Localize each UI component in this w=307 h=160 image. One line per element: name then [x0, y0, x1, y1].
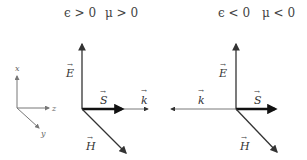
vector-arrow-icon: → — [141, 87, 147, 95]
x-axis-label: x — [15, 64, 20, 73]
right-epsilon-condition: ϵ < 0 — [218, 6, 250, 20]
right-H-label: H → — [239, 134, 250, 153]
vector-arrow-icon: → — [87, 134, 93, 142]
svg-text:k: k — [141, 94, 148, 107]
y-axis — [17, 108, 39, 128]
left-panel: ϵ > 0 μ > 0 E → S → k → H → — [64, 6, 148, 153]
left-H-label: H → — [85, 134, 96, 153]
left-S-label: S → — [100, 88, 108, 107]
diagram-canvas: x z y ϵ > 0 μ > 0 E → S → k → H → ϵ < 0 … — [0, 0, 307, 160]
svg-text:k: k — [198, 94, 205, 107]
vector-arrow-icon: → — [198, 87, 204, 95]
left-epsilon-condition: ϵ > 0 — [64, 6, 96, 20]
z-axis-label: z — [51, 104, 57, 113]
right-E-label: E → — [218, 61, 227, 80]
vector-arrow-icon: → — [67, 61, 73, 69]
left-E-label: E → — [65, 61, 74, 80]
vector-arrow-icon: → — [100, 88, 106, 96]
vector-arrow-icon: → — [254, 88, 260, 96]
vector-arrow-icon: → — [241, 134, 247, 142]
right-panel: ϵ < 0 μ < 0 E → k → S → H → — [171, 6, 295, 153]
right-S-label: S → — [254, 88, 262, 107]
y-axis-label: y — [40, 129, 46, 138]
right-mu-condition: μ < 0 — [262, 6, 295, 20]
left-k-label: k → — [141, 87, 148, 107]
left-mu-condition: μ > 0 — [105, 6, 138, 20]
right-k-label: k → — [198, 87, 205, 107]
coordinate-axes: x z y — [15, 64, 57, 138]
vector-arrow-icon: → — [220, 61, 226, 69]
